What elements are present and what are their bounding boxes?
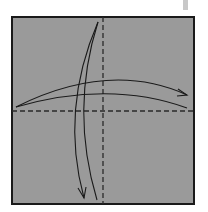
origami-diagram <box>0 0 208 212</box>
